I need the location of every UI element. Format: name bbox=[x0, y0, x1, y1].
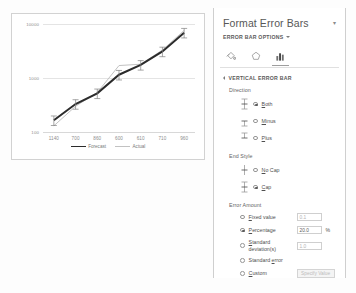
radio-button[interactable] bbox=[240, 271, 245, 276]
error-bar-cap-icon bbox=[240, 181, 249, 193]
radio-label-standard-deviation: Standard deviation(s) bbox=[249, 239, 293, 252]
legend-swatch-forecast-icon bbox=[71, 146, 86, 148]
radio-button[interactable] bbox=[253, 102, 258, 107]
chart-canvas: 1001000100001140700860600610710960 Forec… bbox=[12, 14, 204, 159]
radio-label-minus: Minus bbox=[262, 118, 276, 124]
radio-amount-custom[interactable]: Custom Specify Value bbox=[240, 269, 345, 278]
fill-bucket-icon[interactable] bbox=[224, 49, 237, 63]
pane-icon-row bbox=[224, 46, 345, 63]
error-amount-group-label: Error Amount bbox=[229, 202, 345, 208]
radio-direction-plus[interactable]: Plus bbox=[240, 132, 345, 144]
chart-error-bar bbox=[181, 28, 187, 38]
radio-label-fixed-value: Fixed value bbox=[249, 214, 293, 221]
chart-x-tick-label: 600 bbox=[115, 136, 123, 141]
error-bar-options-icon[interactable] bbox=[274, 49, 287, 63]
error-bar-no-cap-icon bbox=[240, 164, 249, 176]
chart-plot-area: 1001000100001140700860600610710960 bbox=[43, 24, 195, 132]
error-bar-options-label: ERROR BAR OPTIONS bbox=[223, 34, 283, 40]
chart-legend: Forecast Actual bbox=[12, 144, 204, 149]
radio-endstyle-cap[interactable]: Cap bbox=[240, 181, 345, 193]
legend-swatch-actual-icon bbox=[115, 146, 130, 147]
chart-x-tick-label: 710 bbox=[158, 136, 166, 141]
radio-button[interactable] bbox=[253, 168, 258, 173]
radio-amount-standard-error[interactable]: Standard error bbox=[240, 257, 345, 264]
radio-button[interactable] bbox=[240, 228, 245, 233]
standard-deviation-input[interactable]: 1.0 bbox=[297, 242, 322, 250]
chart-x-tick-label: 610 bbox=[137, 136, 145, 141]
chart-x-tick-label: 1140 bbox=[49, 136, 59, 141]
legend-label-actual: Actual bbox=[133, 144, 146, 149]
page-title: Format Error Bars bbox=[223, 17, 309, 29]
chart-x-tick-label: 700 bbox=[72, 136, 80, 141]
chart-error-bar bbox=[116, 70, 122, 80]
end-style-group-label: End Style bbox=[229, 153, 345, 159]
chart-card[interactable]: 1001000100001140700860600610710960 Forec… bbox=[11, 13, 205, 160]
radio-amount-fixed-value[interactable]: Fixed value 0.1 bbox=[240, 213, 345, 221]
error-bar-minus-icon bbox=[240, 115, 249, 127]
pane-title-row: Format Error Bars ▾ bbox=[214, 8, 345, 29]
chevron-down-icon[interactable]: ▾ bbox=[330, 19, 338, 27]
legend-label-forecast: Forecast bbox=[88, 144, 106, 149]
vertical-error-bar-label: VERTICAL ERROR BAR bbox=[229, 75, 292, 81]
radio-label-percentage: Percentage bbox=[249, 227, 293, 234]
error-bar-options-header[interactable]: ERROR BAR OPTIONS bbox=[223, 34, 345, 40]
radio-endstyle-no-cap[interactable]: No Cap bbox=[240, 164, 345, 176]
chart-x-axis-line bbox=[43, 132, 195, 133]
radio-label-standard-error: Standard error bbox=[249, 257, 293, 264]
chart-y-tick-label: 10000 bbox=[26, 22, 39, 27]
vertical-error-bar-section-header[interactable]: VERTICAL ERROR BAR bbox=[223, 75, 345, 81]
radio-button[interactable] bbox=[240, 258, 245, 263]
percentage-input[interactable]: 20.0 bbox=[297, 226, 322, 234]
chart-y-tick-label: 1000 bbox=[29, 76, 39, 81]
radio-label-custom: Custom bbox=[249, 270, 293, 277]
chevron-left-icon bbox=[223, 76, 225, 80]
radio-amount-percentage[interactable]: Percentage 20.0 % bbox=[240, 226, 345, 234]
direction-group-label: Direction bbox=[229, 87, 345, 93]
radio-button[interactable] bbox=[253, 136, 258, 141]
percent-sign-label: % bbox=[326, 227, 331, 233]
radio-amount-standard-deviation[interactable]: Standard deviation(s) 1.0 bbox=[240, 239, 345, 252]
chart-x-tick-label: 960 bbox=[180, 136, 188, 141]
effects-pentagon-icon[interactable] bbox=[249, 49, 262, 63]
radio-label-no-cap: No Cap bbox=[262, 167, 280, 173]
error-bar-plus-icon bbox=[240, 132, 249, 144]
pane-divider bbox=[220, 67, 339, 68]
radio-direction-both[interactable]: Both bbox=[240, 98, 345, 110]
radio-direction-minus[interactable]: Minus bbox=[240, 115, 345, 127]
chart-series-layer bbox=[43, 24, 195, 132]
radio-button[interactable] bbox=[240, 215, 245, 220]
chart-x-tick-label: 860 bbox=[93, 136, 101, 141]
radio-label-plus: Plus bbox=[262, 135, 272, 141]
legend-item-forecast: Forecast bbox=[71, 144, 106, 149]
radio-button[interactable] bbox=[253, 119, 258, 124]
chevron-down-icon bbox=[286, 36, 290, 38]
radio-button[interactable] bbox=[240, 243, 245, 248]
radio-label-cap: Cap bbox=[262, 184, 272, 190]
format-error-bars-pane: Format Error Bars ▾ ERROR BAR OPTIONS bbox=[213, 8, 346, 278]
error-bar-both-icon bbox=[240, 98, 249, 110]
screen-root: 1001000100001140700860600610710960 Forec… bbox=[0, 0, 356, 293]
fixed-value-input[interactable]: 0.1 bbox=[297, 213, 322, 221]
radio-button[interactable] bbox=[253, 185, 258, 190]
legend-item-actual: Actual bbox=[115, 144, 145, 149]
chart-y-tick-label: 100 bbox=[31, 130, 39, 135]
radio-label-both: Both bbox=[262, 101, 273, 107]
specify-value-button[interactable]: Specify Value bbox=[297, 269, 335, 278]
